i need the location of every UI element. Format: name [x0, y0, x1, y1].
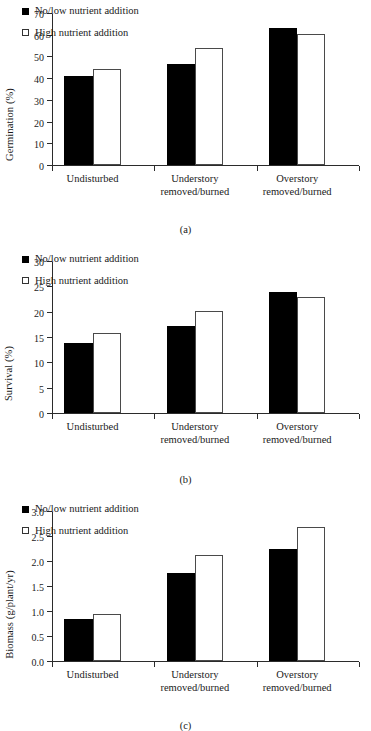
x-tick-a	[257, 166, 258, 171]
legend-swatch-open-square-icon	[22, 277, 29, 284]
x-axis-label-line2: removed/burned	[263, 681, 332, 694]
x-axis-label-b-0: Undisturbed	[67, 420, 119, 433]
x-axis-label-line1: Undisturbed	[67, 668, 119, 681]
legend-swatch-filled-square-icon	[22, 256, 29, 263]
panel-b: Survival (%) 051015202530 No/low nutrien…	[0, 248, 371, 498]
y-tick-a	[47, 122, 52, 123]
y-tick-label-a: 10	[34, 139, 44, 150]
legend-label-no-low: No/low nutrient addition	[35, 254, 139, 265]
x-axis-label-line1: Undisturbed	[67, 172, 119, 185]
bar-c-high-0	[93, 614, 121, 661]
legend-item-high: High nutrient addition	[22, 526, 139, 537]
y-tick-label-b: 0	[39, 409, 44, 420]
y-tick-b	[47, 362, 52, 363]
y-axis-label-b: Survival (%)	[0, 248, 18, 498]
x-tick-b	[154, 414, 155, 419]
bar-c-no-low-2	[269, 549, 297, 661]
x-axis-label-b-2: Overstoryremoved/burned	[263, 420, 332, 446]
y-axis-label-a: Germination (%)	[0, 0, 18, 248]
bar-a-high-0	[93, 69, 121, 165]
legend-swatch-filled-square-icon	[22, 8, 29, 15]
legend-item-high: High nutrient addition	[22, 28, 139, 39]
x-axis-label-a-1: Understoryremoved/burned	[160, 172, 229, 198]
y-axis-label-c: Biomass (g/plant/yr)	[0, 498, 18, 730]
x-axis-label-line1: Understory	[160, 172, 229, 185]
y-tick-label-b: 20	[34, 307, 44, 318]
x-axis-line-b	[52, 413, 359, 414]
legend-swatch-open-square-icon	[22, 29, 29, 36]
y-tick-label-a: 30	[34, 95, 44, 106]
y-tick-a	[47, 78, 52, 79]
panel-c: Biomass (g/plant/yr) 0.00.51.01.52.02.53…	[0, 498, 371, 730]
y-tick-c	[47, 586, 52, 587]
x-tick-a	[359, 166, 360, 171]
legend-label-high: High nutrient addition	[35, 526, 128, 537]
x-axis-label-b-1: Understoryremoved/burned	[160, 420, 229, 446]
y-tick-c	[47, 636, 52, 637]
panel-caption-a: (a)	[0, 224, 371, 235]
x-tick-c	[257, 662, 258, 667]
panel-a: Germination (%) 010203040506070 No/low n…	[0, 0, 371, 248]
y-tick-label-b: 10	[34, 358, 44, 369]
legend-swatch-open-square-icon	[22, 527, 29, 534]
y-tick-label-c: 1.0	[32, 607, 45, 618]
bar-b-high-1	[195, 311, 223, 413]
bar-c-no-low-1	[167, 573, 195, 661]
bar-a-no-low-0	[64, 76, 92, 165]
x-axis-label-line1: Overstory	[263, 172, 332, 185]
legend-label-high: High nutrient addition	[35, 276, 128, 287]
y-tick-a	[47, 100, 52, 101]
x-axis-label-line2: removed/burned	[160, 185, 229, 198]
x-tick-b	[257, 414, 258, 419]
x-tick-b	[359, 414, 360, 419]
y-tick-label-c: 0.5	[32, 632, 45, 643]
y-tick-label-a: 20	[34, 117, 44, 128]
x-axis-label-c-1: Understoryremoved/burned	[160, 668, 229, 694]
y-tick-label-c: 0.0	[32, 657, 45, 668]
x-axis-line-c	[52, 661, 359, 662]
x-axis-label-line2: removed/burned	[263, 185, 332, 198]
x-axis-label-a-2: Overstoryremoved/burned	[263, 172, 332, 198]
y-tick-c	[47, 611, 52, 612]
legend-label-no-low: No/low nutrient addition	[35, 504, 139, 515]
x-tick-c	[52, 662, 53, 667]
x-axis-label-line2: removed/burned	[263, 433, 332, 446]
x-axis-label-line1: Undisturbed	[67, 420, 119, 433]
legend-item-high: High nutrient addition	[22, 276, 139, 287]
y-tick-b	[47, 312, 52, 313]
y-tick-label-a: 50	[34, 52, 44, 63]
legend-b: No/low nutrient addition High nutrient a…	[22, 254, 139, 297]
panel-caption-c: (c)	[0, 720, 371, 731]
y-tick-a	[47, 56, 52, 57]
bar-a-high-2	[297, 34, 325, 165]
panel-caption-b: (b)	[0, 474, 371, 485]
bar-b-no-low-0	[64, 343, 92, 413]
bar-a-no-low-2	[269, 28, 297, 165]
x-axis-label-line1: Understory	[160, 668, 229, 681]
y-tick-label-b: 5	[39, 383, 44, 394]
y-tick-b	[47, 388, 52, 389]
legend-c: No/low nutrient addition High nutrient a…	[22, 504, 139, 547]
x-axis-line-a	[52, 165, 359, 166]
y-tick-label-a: 0	[39, 161, 44, 172]
bar-b-high-2	[297, 297, 325, 413]
legend-item-no-low: No/low nutrient addition	[22, 254, 139, 265]
y-tick-label-a: 40	[34, 74, 44, 85]
bar-b-high-0	[93, 333, 121, 413]
bar-b-no-low-2	[269, 292, 297, 413]
legend-swatch-filled-square-icon	[22, 506, 29, 513]
bar-c-high-2	[297, 527, 325, 661]
x-axis-label-line1: Understory	[160, 420, 229, 433]
x-tick-a	[154, 166, 155, 171]
bar-a-no-low-1	[167, 64, 195, 165]
x-axis-label-a-0: Undisturbed	[67, 172, 119, 185]
legend-item-no-low: No/low nutrient addition	[22, 504, 139, 515]
y-tick-label-c: 1.5	[32, 582, 45, 593]
x-axis-label-c-0: Undisturbed	[67, 668, 119, 681]
y-tick-a	[47, 143, 52, 144]
legend-label-high: High nutrient addition	[35, 28, 128, 39]
y-tick-label-b: 15	[34, 333, 44, 344]
x-tick-b	[52, 414, 53, 419]
legend-a: No/low nutrient addition High nutrient a…	[22, 6, 139, 49]
